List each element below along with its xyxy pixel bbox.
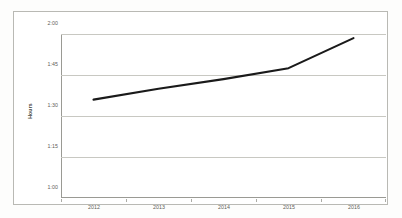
- chart-frame: Hours 2:00 1:45 1:30 1:15 1:00: [13, 11, 388, 205]
- x-axis: 2012 2013 2014 2015 2016: [61, 199, 386, 215]
- y-tick-label: 2:00: [32, 20, 58, 26]
- y-tick-label: 1:45: [32, 61, 58, 67]
- y-tick-label: 1:00: [32, 184, 58, 190]
- series-polyline: [94, 38, 354, 100]
- x-tick-label: 2016: [334, 204, 374, 211]
- series-line-hours: [61, 34, 386, 198]
- x-tick-label: 2015: [269, 204, 309, 211]
- y-axis-tick-labels: 2:00 1:45 1:30 1:15 1:00: [28, 12, 58, 218]
- x-tick-mark: [126, 199, 127, 202]
- x-tick-label: 2014: [204, 204, 244, 211]
- y-tick-label: 1:30: [32, 102, 58, 108]
- y-tick-label: 1:15: [32, 143, 58, 149]
- x-tick-label: 2013: [139, 204, 179, 211]
- x-tick-mark: [61, 199, 62, 202]
- x-tick-mark: [256, 199, 257, 202]
- x-tick-mark: [191, 199, 192, 202]
- scanned-page-background: Hours 2:00 1:45 1:30 1:15 1:00: [0, 0, 402, 218]
- plot-area: [61, 34, 386, 198]
- x-tick-mark: [385, 199, 386, 202]
- x-tick-mark: [321, 199, 322, 202]
- x-tick-label: 2012: [74, 204, 114, 211]
